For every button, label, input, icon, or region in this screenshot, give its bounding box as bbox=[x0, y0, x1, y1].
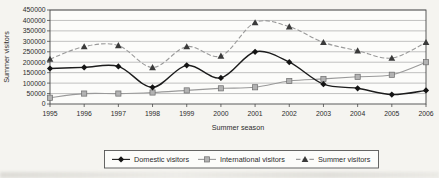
marker-square bbox=[184, 88, 189, 93]
y-tick-label: 250000 bbox=[23, 48, 46, 55]
x-tick-label: 1997 bbox=[111, 110, 126, 117]
legend-label: Summer visitors bbox=[318, 155, 371, 164]
marker-square bbox=[82, 91, 87, 96]
legend-label: International visitors bbox=[220, 155, 285, 164]
y-tick-label: 50000 bbox=[27, 90, 46, 97]
y-tick-label: 200000 bbox=[23, 59, 46, 66]
visitor-trends-figure: 0500001000001500002000002500003000003500… bbox=[0, 0, 439, 178]
y-tick-label: 100000 bbox=[23, 80, 46, 87]
scan-artifact bbox=[0, 172, 439, 178]
y-axis-title: Summer visitors bbox=[2, 31, 11, 83]
y-tick-label: 400000 bbox=[23, 17, 46, 24]
x-tick-label: 2001 bbox=[248, 110, 263, 117]
marker-square bbox=[423, 60, 428, 65]
marker-square bbox=[321, 76, 326, 81]
marker-square bbox=[218, 86, 223, 91]
x-tick-label: 1996 bbox=[77, 110, 92, 117]
line-chart: 0500001000001500002000002500003000003500… bbox=[0, 0, 439, 178]
marker-square bbox=[116, 91, 121, 96]
x-tick-label: 2004 bbox=[350, 110, 365, 117]
marker-square bbox=[287, 78, 292, 83]
marker-square bbox=[389, 72, 394, 77]
x-tick-label: 2002 bbox=[282, 110, 297, 117]
legend: Domestic visitorsInternational visitorsS… bbox=[105, 151, 379, 169]
x-tick-label: 2003 bbox=[316, 110, 331, 117]
x-tick-label: 1999 bbox=[179, 110, 194, 117]
y-tick-label: 0 bbox=[42, 100, 46, 107]
x-tick-label: 2000 bbox=[213, 110, 228, 117]
y-tick-label: 450000 bbox=[23, 6, 46, 13]
y-tick-label: 150000 bbox=[23, 69, 46, 76]
legend-label: Domestic visitors bbox=[134, 155, 189, 164]
x-tick-label: 2005 bbox=[384, 110, 399, 117]
marker-square bbox=[252, 85, 257, 90]
y-tick-label: 300000 bbox=[23, 38, 46, 45]
x-tick-label: 1998 bbox=[145, 110, 160, 117]
plot-area bbox=[50, 10, 426, 104]
marker-square bbox=[150, 90, 155, 95]
x-tick-label: 1995 bbox=[42, 110, 57, 117]
y-tick-label: 350000 bbox=[23, 27, 46, 34]
marker-square bbox=[204, 157, 209, 162]
marker-square bbox=[355, 74, 360, 79]
x-axis-title: Summer season bbox=[212, 123, 264, 132]
marker-square bbox=[47, 95, 52, 100]
x-tick-label: 2006 bbox=[418, 110, 433, 117]
